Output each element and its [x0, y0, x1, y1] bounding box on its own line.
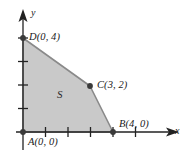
- vertex-label-a: A(0, 0): [28, 137, 58, 148]
- vertex-label-d: D(0, 4): [29, 32, 60, 43]
- vertex-a-dot: [20, 129, 26, 135]
- y-axis-label: y: [31, 8, 35, 18]
- vertex-c-dot: [87, 83, 93, 89]
- vertex-label-b: B(4, 0): [119, 119, 149, 130]
- vertex-d-dot: [20, 35, 26, 41]
- vertex-b-dot: [110, 129, 116, 135]
- region-figure: y x D(0, 4) C(3, 2) B(4, 0) A(0, 0) S: [0, 0, 185, 161]
- region-label-s: S: [57, 89, 63, 100]
- vertex-label-c: C(3, 2): [97, 80, 127, 91]
- x-axis-label: x: [175, 126, 179, 136]
